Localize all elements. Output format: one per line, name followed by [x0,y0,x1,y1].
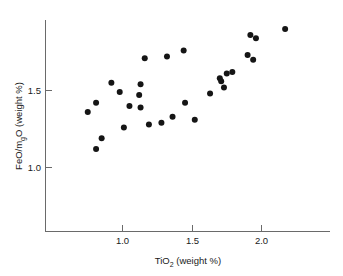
y-tick-label-1-5: 1.5 [28,85,41,96]
y-axis-title-tail: O (weight %) [13,82,24,137]
data-point [218,78,224,84]
data-point [207,91,213,97]
data-point [250,57,256,63]
scatter-plot-figure: 1.0 1.5 2.0 1.5 1.0 TiO2 (weight %) FeO/… [0,0,343,276]
svg-text:FeO/mgO (weight %): FeO/mgO (weight %) [13,82,27,170]
data-point [164,54,170,60]
x-tick-label-2-0: 2.0 [255,235,268,246]
data-point [282,26,288,32]
data-point [85,109,91,115]
scatter-data-points [85,26,288,152]
data-point [245,52,251,58]
data-point [136,92,142,98]
data-point [126,103,132,109]
svg-text:TiO2 (weight %): TiO2 (weight %) [155,255,221,268]
data-point [146,121,152,127]
data-point [181,47,187,53]
data-point [192,117,198,123]
data-point [108,80,114,86]
y-tick-label-1-0: 1.0 [28,162,41,173]
x-axis-title: TiO2 (weight %) [155,255,221,268]
y-axis-title-lead: FeO/m [13,141,24,170]
data-point [224,71,230,77]
data-point [99,135,105,141]
data-point [121,124,127,130]
data-point [93,146,99,152]
y-axis-title: FeO/mgO (weight %) [13,82,27,170]
x-axis-ticks: 1.0 1.5 2.0 [116,225,268,246]
data-point [93,100,99,106]
x-axis-title-tail: (weight %) [174,255,222,266]
data-point [170,114,176,120]
x-tick-label-1-0: 1.0 [116,235,129,246]
y-axis-ticks: 1.5 1.0 [28,85,52,173]
data-point [253,35,259,41]
x-tick-label-1-5: 1.5 [186,235,199,246]
x-axis-title-lead: TiO [155,255,170,266]
plot-canvas: 1.0 1.5 2.0 1.5 1.0 TiO2 (weight %) FeO/… [0,0,343,276]
data-point [138,81,144,87]
data-point [117,89,123,95]
axis-spines [46,20,331,232]
data-point [247,32,253,38]
data-point [142,55,148,61]
data-point [221,84,227,90]
data-point [182,100,188,106]
data-point [138,104,144,110]
data-point [158,120,164,126]
data-point [229,69,235,75]
